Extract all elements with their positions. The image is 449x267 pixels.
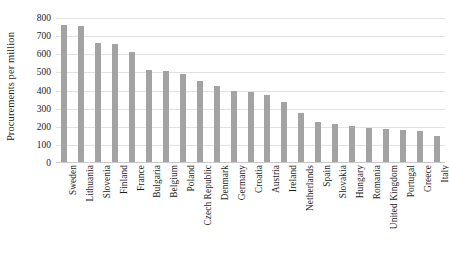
y-axis-tick-label: 800: [37, 13, 51, 23]
bar: [231, 91, 237, 164]
plot-area: [56, 18, 445, 163]
bar-series: [56, 18, 445, 163]
x-axis-tick-label: Slovakia: [338, 165, 348, 198]
x-axis-tick-label: Netherlands: [305, 165, 315, 211]
bar: [95, 43, 101, 163]
bar: [129, 52, 135, 163]
y-axis-tick-label: 100: [37, 140, 51, 150]
bar: [264, 95, 270, 163]
bar: [417, 131, 423, 163]
x-axis-tick-label: Germany: [237, 165, 247, 200]
x-axis-tick-label: Poland: [186, 165, 196, 191]
bar: [332, 124, 338, 163]
x-axis-tick-label: Romania: [372, 165, 382, 199]
x-axis-tick-label: Denmark: [220, 165, 230, 200]
x-axis-labels: SwedenLithuaniaSloveniaFinlandFranceBulg…: [56, 165, 445, 265]
bar: [197, 81, 203, 163]
x-axis-tick-label: Czech Republic: [203, 165, 213, 226]
bar: [400, 130, 406, 163]
bar: [366, 128, 372, 163]
x-axis-tick-label: Greece: [423, 165, 433, 192]
bar: [383, 129, 389, 163]
y-axis-title: Procurements per million: [0, 0, 22, 172]
bar: [248, 92, 254, 163]
x-axis-tick-label: Finland: [119, 165, 129, 194]
y-axis-tick-label: 600: [37, 49, 51, 59]
bar: [349, 126, 355, 163]
bar: [78, 26, 84, 163]
y-axis-tick-label: 200: [37, 122, 51, 132]
bar: [61, 25, 67, 163]
bar: [180, 74, 186, 163]
y-axis-tick-label: 500: [37, 67, 51, 77]
y-axis-tick-label: 400: [37, 86, 51, 96]
x-axis-tick-label: Italy: [440, 165, 449, 183]
bar: [112, 44, 118, 163]
bar: [163, 71, 169, 163]
y-axis-title-text: Procurements per million: [6, 31, 17, 140]
x-axis-tick-label: United Kingdom: [389, 165, 399, 229]
x-axis-tick-label: Portugal: [406, 165, 416, 197]
x-axis-tick-label: France: [136, 165, 146, 191]
x-axis-tick-label: Sweden: [68, 165, 78, 195]
bar: [214, 86, 220, 163]
y-axis-tick-label: 0: [46, 158, 51, 168]
bar: [315, 122, 321, 163]
y-axis-tick-label: 300: [37, 104, 51, 114]
x-axis-tick-label: Belgium: [169, 165, 179, 198]
x-axis-tick-label: Spain: [322, 165, 332, 187]
y-axis-ticks: 0100200300400500600700800: [22, 18, 55, 163]
x-axis-tick-label: Bulgaria: [152, 165, 162, 198]
x-axis-tick-label: Slovenia: [102, 165, 112, 198]
x-axis-line: [56, 162, 445, 163]
bar: [281, 102, 287, 163]
bar: [434, 136, 440, 163]
x-axis-tick-label: Austria: [271, 165, 281, 193]
y-axis-tick-label: 700: [37, 31, 51, 41]
x-axis-tick-label: Lithuania: [85, 165, 95, 202]
bar: [298, 113, 304, 163]
x-axis-tick-label: Ireland: [288, 165, 298, 192]
x-axis-tick-label: Hungary: [355, 165, 365, 198]
bar: [146, 70, 152, 163]
x-axis-tick-label: Croatia: [254, 165, 264, 193]
bar-chart: Procurements per million 010020030040050…: [0, 0, 449, 267]
